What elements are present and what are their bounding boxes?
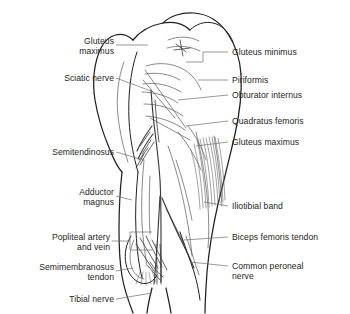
- label-popliteal-artery-and-vein: Popliteal artery and vein: [4, 232, 110, 253]
- label-common-peroneal-nerve: Common peroneal nerve: [232, 261, 348, 282]
- leader-quadratus-femoris: [186, 121, 228, 126]
- leader-obturator-internus: [178, 95, 228, 100]
- leader-tibial-nerve: [116, 293, 152, 299]
- leader-adductor-magnus: [116, 196, 132, 200]
- illustration-body: [94, 13, 242, 313]
- label-semitendinosus: Semitendinosus: [8, 147, 114, 157]
- iliotibial-band-shape: [191, 132, 225, 248]
- label-gluteus-minimus: Gluteus minimus: [232, 47, 348, 57]
- label-iliotibial-band: Iliotibial band: [232, 201, 348, 211]
- label-sciatic-nerve: Sciatic nerve: [8, 73, 114, 83]
- label-semimembranosus-tendon: Semimembranosus tendon: [4, 262, 114, 283]
- label-quadratus-femoris: Quadratus femoris: [232, 116, 348, 126]
- label-biceps-femoris-tendon: Biceps femoris tendon: [232, 232, 350, 242]
- label-adductor-magnus: Adductor magnus: [8, 187, 114, 208]
- label-gluteus-maximus-right: Gluteus maximus: [232, 137, 348, 147]
- iliotibial-hatching: [191, 137, 225, 209]
- label-obturator-internus: Obturator internus: [232, 90, 348, 100]
- leader-biceps-femoris-tendon: [184, 237, 228, 240]
- sciatic-nerve-shape: [136, 90, 194, 284]
- medial-thigh-outline: [119, 172, 142, 313]
- leader-gluteus-minimus-bracket: [186, 52, 228, 62]
- label-gluteus-maximus-left: Gluteus maximus: [8, 36, 114, 57]
- leader-semimembranosus-tendon: [116, 268, 133, 271]
- lower-leg-outline: [147, 288, 171, 313]
- label-tibial-nerve: Tibial nerve: [8, 294, 114, 304]
- label-piriformis: Piriformis: [232, 75, 348, 85]
